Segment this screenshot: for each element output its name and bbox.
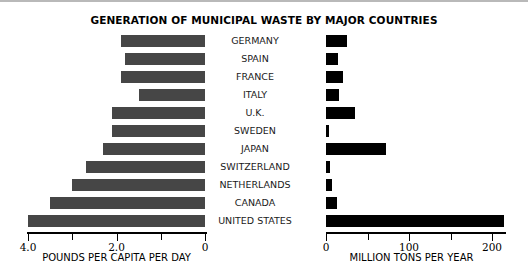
bar-pounds-per-capita — [86, 161, 205, 173]
category-label: CANADA — [213, 194, 297, 212]
axis-minor-tick — [368, 234, 369, 240]
bar-row — [295, 86, 528, 104]
bar-pounds-per-capita — [112, 125, 205, 137]
axis-tick-label: 200 — [472, 241, 512, 253]
left-axis-title: POUNDS PER CAPITA PER DAY — [0, 252, 233, 263]
bar-row — [295, 140, 528, 158]
bar-row — [0, 176, 215, 194]
bar-row — [0, 212, 215, 230]
axis-tick-label: 100 — [389, 241, 429, 253]
bar-million-tons — [326, 197, 337, 209]
bar-million-tons — [326, 179, 332, 191]
axis-major-tick — [117, 234, 118, 241]
category-label: SWEDEN — [213, 122, 297, 140]
axis-major-tick — [409, 234, 410, 241]
bar-row — [0, 68, 215, 86]
bar-pounds-per-capita — [139, 89, 205, 101]
axis-major-tick — [205, 234, 206, 241]
category-label: ITALY — [213, 86, 297, 104]
bar-pounds-per-capita — [28, 215, 205, 227]
axis-tick-label: 4.0 — [8, 241, 48, 253]
axis-minor-tick — [161, 234, 162, 240]
bar-row — [0, 122, 215, 140]
bar-row — [0, 50, 215, 68]
bar-million-tons — [326, 35, 347, 47]
axis-tick-label: 0 — [306, 241, 346, 253]
axis-major-tick — [326, 234, 327, 241]
bar-million-tons — [326, 215, 504, 227]
bar-row — [295, 212, 528, 230]
category-label: FRANCE — [213, 68, 297, 86]
bar-row — [0, 158, 215, 176]
category-label: JAPAN — [213, 140, 297, 158]
category-label: SPAIN — [213, 50, 297, 68]
category-label-column: GERMANYSPAINFRANCEITALYU.K.SWEDENJAPANSW… — [213, 32, 297, 232]
bar-million-tons — [326, 161, 330, 173]
bar-row — [295, 68, 528, 86]
bar-row — [0, 140, 215, 158]
bar-pounds-per-capita — [121, 71, 205, 83]
right-axis-line — [326, 232, 506, 234]
category-label: SWITZERLAND — [213, 158, 297, 176]
right-chart-panel — [295, 32, 528, 232]
axis-minor-tick — [451, 234, 452, 240]
axis-tick-label: 2.0 — [97, 241, 137, 253]
left-chart-panel — [0, 32, 215, 232]
bar-pounds-per-capita — [125, 53, 205, 65]
axis-minor-tick — [72, 234, 73, 240]
chart-figure: GENERATION OF MUNICIPAL WASTE BY MAJOR C… — [0, 0, 528, 280]
category-label: UNITED STATES — [213, 212, 297, 230]
axis-tick-label: 0 — [185, 241, 225, 253]
bar-row — [295, 176, 528, 194]
bar-row — [295, 50, 528, 68]
category-label: NETHERLANDS — [213, 176, 297, 194]
bar-row — [0, 86, 215, 104]
bar-million-tons — [326, 125, 329, 137]
bar-row — [295, 122, 528, 140]
bar-row — [295, 194, 528, 212]
bar-million-tons — [326, 143, 386, 155]
bar-pounds-per-capita — [103, 143, 205, 155]
bar-million-tons — [326, 89, 339, 101]
category-label: U.K. — [213, 104, 297, 122]
bar-million-tons — [326, 107, 355, 119]
bar-pounds-per-capita — [121, 35, 205, 47]
bar-million-tons — [326, 71, 343, 83]
bar-row — [295, 32, 528, 50]
bar-pounds-per-capita — [50, 197, 205, 209]
bar-pounds-per-capita — [112, 107, 205, 119]
bar-row — [295, 158, 528, 176]
bar-row — [295, 104, 528, 122]
bar-row — [0, 194, 215, 212]
chart-title: GENERATION OF MUNICIPAL WASTE BY MAJOR C… — [0, 14, 528, 26]
right-axis-title: MILLION TONS PER YEAR — [295, 252, 528, 263]
bar-pounds-per-capita — [72, 179, 205, 191]
axis-major-tick — [492, 234, 493, 241]
bar-million-tons — [326, 53, 338, 65]
bar-row — [0, 104, 215, 122]
bar-row — [0, 32, 215, 50]
axis-major-tick — [28, 234, 29, 241]
category-label: GERMANY — [213, 32, 297, 50]
